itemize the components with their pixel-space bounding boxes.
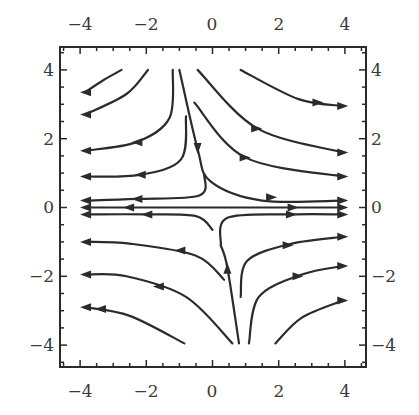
right-y-tick-label: 4 bbox=[371, 60, 382, 80]
arrowhead-icon bbox=[80, 303, 91, 311]
left-y-tick-label: 2 bbox=[43, 129, 54, 149]
top-x-tick-label: 2 bbox=[274, 14, 285, 34]
left-y-tick-labels: 4 2 0 −2 −4 bbox=[29, 60, 54, 355]
streamline-ul4 bbox=[85, 116, 186, 176]
arrowhead-icon bbox=[80, 238, 91, 246]
streamline-ur1 bbox=[241, 70, 344, 106]
left-y-tick-label: 0 bbox=[43, 197, 54, 217]
arrowhead-icon bbox=[80, 147, 91, 155]
arrowhead-icon bbox=[141, 210, 152, 218]
streamline-lr4 bbox=[275, 300, 343, 343]
right-y-tick-label: 2 bbox=[371, 129, 382, 149]
left-y-tick-label: 4 bbox=[43, 60, 54, 80]
streamline-ul2 bbox=[85, 70, 148, 115]
arrowhead-icon bbox=[131, 138, 142, 146]
arrowhead-icon bbox=[337, 233, 348, 241]
arrowhead-icon bbox=[135, 171, 146, 179]
arrowhead-icon bbox=[337, 173, 348, 181]
bottom-x-tick-labels: −4 −2 0 2 4 bbox=[67, 381, 350, 401]
arrowhead-icon bbox=[266, 193, 277, 201]
arrowhead-icon bbox=[194, 143, 202, 154]
right-y-tick-labels: 4 2 0 −2 −4 bbox=[371, 60, 396, 355]
arrowhead-icon bbox=[240, 154, 251, 162]
top-x-tick-label: 4 bbox=[340, 14, 351, 34]
streamplot-chart: −4 −2 0 2 4 −4 −2 0 2 4 4 2 0 −2 −4 4 2 … bbox=[0, 0, 419, 415]
arrowhead-icon bbox=[80, 111, 91, 119]
arrowhead-icon bbox=[223, 263, 231, 274]
streamline-sep_down bbox=[179, 70, 343, 202]
arrowhead-icon bbox=[80, 271, 91, 279]
right-y-tick-label: −2 bbox=[371, 266, 396, 286]
bottom-x-tick-label: −4 bbox=[67, 381, 92, 401]
top-x-tick-label: −2 bbox=[133, 14, 158, 34]
arrowhead-icon bbox=[80, 197, 91, 205]
arrowhead-icon bbox=[123, 204, 134, 212]
bottom-x-tick-label: 0 bbox=[207, 381, 218, 401]
arrowhead-icon bbox=[337, 296, 348, 304]
streamline-up_sep bbox=[221, 245, 239, 343]
bottom-x-tick-label: −2 bbox=[133, 381, 158, 401]
arrowhead-icon bbox=[288, 204, 299, 212]
streamline-ll4 bbox=[85, 307, 184, 343]
bottom-x-tick-label: 4 bbox=[340, 381, 351, 401]
arrowhead-icon bbox=[80, 88, 91, 96]
arrowhead-icon bbox=[337, 262, 348, 270]
arrowhead-icon bbox=[80, 210, 91, 218]
top-x-tick-label: −4 bbox=[67, 14, 92, 34]
arrowhead-icon bbox=[337, 204, 348, 212]
bottom-x-tick-label: 2 bbox=[274, 381, 285, 401]
arrowhead-icon bbox=[337, 197, 348, 205]
streamline-lr1 bbox=[220, 214, 343, 245]
arrowhead-icon bbox=[95, 305, 106, 313]
streamline-ur2 bbox=[198, 70, 344, 153]
streamlines bbox=[80, 70, 348, 343]
arrowhead-icon bbox=[337, 102, 348, 110]
streamline-ul3 bbox=[85, 70, 173, 151]
arrowhead-icon bbox=[80, 204, 91, 212]
arrowhead-icon bbox=[337, 210, 348, 218]
arrowhead-icon bbox=[312, 99, 323, 107]
right-y-tick-label: 0 bbox=[371, 197, 382, 217]
arrowhead-icon bbox=[337, 148, 348, 156]
arrowhead-icon bbox=[286, 210, 297, 218]
left-y-tick-label: −2 bbox=[29, 266, 54, 286]
right-y-tick-label: −4 bbox=[371, 335, 396, 355]
arrowhead-icon bbox=[131, 195, 142, 203]
arrowhead-icon bbox=[80, 173, 91, 181]
streamline-ur3 bbox=[194, 103, 343, 177]
arrowhead-icon bbox=[174, 247, 185, 255]
top-x-tick-labels: −4 −2 0 2 4 bbox=[67, 14, 350, 34]
left-y-tick-label: −4 bbox=[29, 335, 54, 355]
top-x-tick-label: 0 bbox=[207, 14, 218, 34]
